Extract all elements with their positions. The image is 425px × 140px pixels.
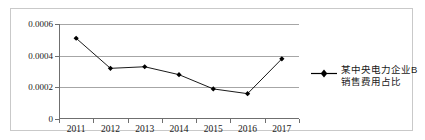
y-tick-label: 0.0002 [28, 83, 53, 92]
x-tick-label: 2015 [204, 125, 223, 135]
x-tick-mark [299, 119, 300, 123]
data-series-line [59, 24, 299, 119]
data-point-marker [176, 72, 181, 77]
plot-area: 0.00060.00040.00020 20112012201320142015… [59, 24, 299, 119]
data-point-marker [142, 64, 147, 69]
x-tick-mark [93, 119, 94, 123]
y-tick-label: 0.0006 [28, 20, 53, 29]
x-tick-label: 2013 [135, 125, 154, 135]
x-tick-label: 2011 [67, 125, 86, 135]
x-tick-label: 2016 [238, 125, 257, 135]
chart-figure: 0.00060.00040.00020 20112012201320142015… [10, 8, 413, 131]
chart-legend: 某中央电力企业B销售费用占比 [311, 64, 411, 88]
x-tick-mark [59, 119, 60, 123]
x-tick-mark [265, 119, 266, 123]
x-tick-mark [230, 119, 231, 123]
x-tick-label: 2014 [170, 125, 189, 135]
y-tick-label: 0 [49, 115, 54, 124]
legend-marker-icon [311, 69, 337, 78]
legend-label-line: 销售费用占比 [341, 76, 417, 88]
series-line [76, 38, 282, 93]
data-point-marker [211, 86, 216, 91]
x-tick-label: 2012 [101, 125, 120, 135]
legend-label-line: 某中央电力企业B [341, 64, 417, 76]
y-tick-label: 0.0004 [28, 51, 53, 60]
legend-label: 某中央电力企业B销售费用占比 [341, 64, 417, 88]
x-tick-mark [128, 119, 129, 123]
x-tick-mark [196, 119, 197, 123]
x-tick-mark [162, 119, 163, 123]
x-tick-label: 2017 [272, 125, 291, 135]
